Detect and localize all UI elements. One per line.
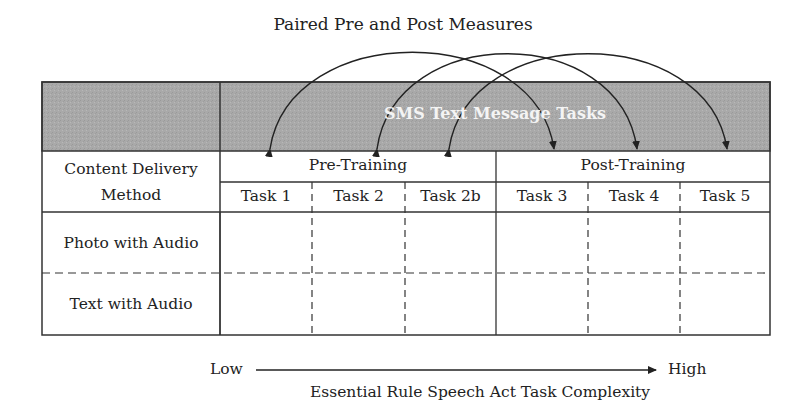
task-2-header: Task 2 [312,187,405,205]
table-grid [0,0,806,418]
axis-title: Essential Rule Speech Act Task Complexit… [260,383,700,401]
phase-pre-training: Pre-Training [220,156,496,174]
task-1-header: Task 1 [220,187,312,205]
axis-low-label: Low [210,360,243,378]
phase-post-training: Post-Training [496,156,770,174]
task-2b-header: Task 2b [405,187,496,205]
task-5-header: Task 5 [680,187,770,205]
header-band-label: SMS Text Message Tasks [220,104,770,123]
axis-high-label: High [668,360,706,378]
row-photo-with-audio: Photo with Audio [42,234,220,252]
task-3-header: Task 3 [496,187,588,205]
row-text-with-audio: Text with Audio [42,295,220,313]
task-4-header: Task 4 [588,187,680,205]
row-header-line2: Method [42,186,220,204]
row-header-line1: Content Delivery [42,160,220,178]
